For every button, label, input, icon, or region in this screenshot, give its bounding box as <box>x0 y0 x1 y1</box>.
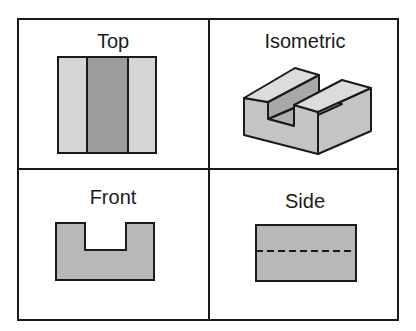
side-view-shape <box>256 225 356 281</box>
front-view-shape <box>56 223 154 280</box>
views-drawing <box>0 0 416 331</box>
isometric-view-shape <box>244 68 371 154</box>
top-view-shape <box>58 57 156 153</box>
